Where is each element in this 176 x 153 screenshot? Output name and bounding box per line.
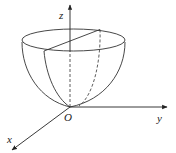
origin-label: O [64, 111, 72, 123]
x-axis [12, 107, 70, 150]
x-axis-label: x [6, 133, 12, 145]
y-axis-label: y [156, 112, 162, 124]
cross-section-chord [44, 30, 100, 52]
paraboloid-left-side [22, 42, 70, 107]
cross-section-back-curve [79, 30, 100, 107]
paraboloid-diagram: z y x O [0, 0, 176, 153]
cross-section-front-curve [44, 51, 70, 107]
z-axis-label: z [58, 9, 64, 21]
paraboloid-right-side [70, 42, 125, 107]
